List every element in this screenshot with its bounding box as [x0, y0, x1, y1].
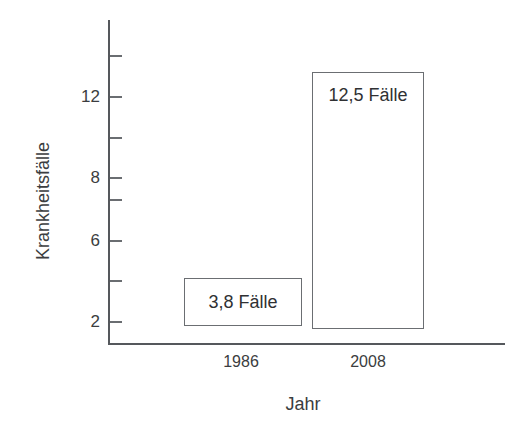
bar-chart: 12 8 6 2 Krankheitsfälle 3,8 Fälle 12,5 …	[0, 0, 530, 435]
x-axis-title: Jahr	[243, 395, 363, 413]
x-axis-category-label-2008: 2008	[323, 353, 413, 371]
x-axis-line	[108, 343, 505, 345]
y-axis-tick-label-text: 8	[56, 169, 100, 186]
y-axis-tick-label-text: 12	[56, 88, 100, 105]
bar-1986: 3,8 Fälle	[184, 278, 302, 326]
y-axis-tick-label-8: 8	[56, 169, 100, 186]
y-axis-tick	[110, 240, 122, 242]
y-axis-tick-label-text: 2	[56, 313, 100, 330]
bar-value-label-2008: 12,5 Fälle	[313, 85, 423, 105]
y-axis-tick	[110, 55, 122, 57]
y-axis-tick	[110, 96, 122, 98]
y-axis-title: Krankheitsfälle	[34, 96, 52, 306]
y-axis-tick-label-2: 2	[56, 313, 100, 330]
y-axis-tick-label-6: 6	[56, 232, 100, 249]
y-axis-tick	[110, 321, 122, 323]
bar-value-label-1986: 3,8 Fälle	[185, 292, 301, 312]
bar-2008: 12,5 Fälle	[312, 72, 424, 329]
y-axis-tick-label-text: 6	[56, 232, 100, 249]
y-axis-tick-label-12: 12	[56, 88, 100, 105]
x-axis-category-label-1986: 1986	[196, 353, 286, 371]
y-axis-line	[108, 20, 110, 345]
y-axis-tick	[110, 280, 122, 282]
y-axis-tick	[110, 199, 122, 201]
y-axis-tick	[110, 177, 122, 179]
y-axis-tick	[110, 137, 122, 139]
